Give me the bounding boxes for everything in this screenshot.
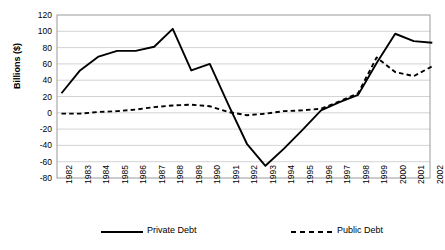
x-axis-tick: 1995	[306, 165, 314, 184]
x-axis-tick: 1991	[232, 165, 240, 184]
series-line-public-debt	[62, 57, 433, 115]
x-axis-tick: 1996	[325, 165, 333, 184]
x-axis-tick: 2001	[417, 165, 425, 184]
x-axis-tick: 1997	[343, 165, 351, 184]
x-axis-tick: 2002	[436, 165, 444, 184]
x-axis-tick: 1989	[195, 165, 203, 184]
x-axis-tick: 1994	[287, 165, 295, 184]
y-axis-tick: 60	[26, 60, 52, 68]
legend-label-public-debt: Public Debt	[337, 225, 383, 235]
y-axis-tick: 40	[26, 76, 52, 84]
y-axis-tick: 80	[26, 44, 52, 52]
x-axis-tick: 1999	[380, 165, 388, 184]
chart-legend: Private Debt Public Debt	[0, 226, 441, 246]
y-axis-tick: 100	[26, 27, 52, 35]
y-axis-tick-labels: 120100806040200-20-40-60-80	[26, 0, 52, 190]
x-axis-tick: 1990	[213, 165, 221, 184]
x-axis-tick: 1992	[250, 165, 258, 184]
legend-swatch-dashed	[290, 226, 334, 238]
y-axis-tick: -20	[26, 125, 52, 133]
x-axis-tick: 1986	[139, 165, 147, 184]
y-axis-tick: 0	[26, 109, 52, 117]
x-axis-tick: 1998	[362, 165, 370, 184]
x-axis-tick: 1988	[176, 165, 184, 184]
x-axis-tick: 1987	[158, 165, 166, 184]
y-axis-tick: 120	[26, 11, 52, 19]
y-axis-tick: -40	[26, 141, 52, 149]
legend-swatch-solid	[100, 226, 144, 238]
x-axis-tick: 2000	[399, 165, 407, 184]
x-axis-tick: 1993	[269, 165, 277, 184]
y-axis-tick: -80	[26, 174, 52, 182]
x-axis-tick: 1983	[84, 165, 92, 184]
x-axis-tick: 1982	[65, 165, 73, 184]
y-axis-tick: -60	[26, 158, 52, 166]
y-axis-tick: 20	[26, 93, 52, 101]
x-axis-tick: 1984	[102, 165, 110, 184]
x-axis-tick: 1985	[121, 165, 129, 184]
legend-label-private-debt: Private Debt	[147, 225, 197, 235]
